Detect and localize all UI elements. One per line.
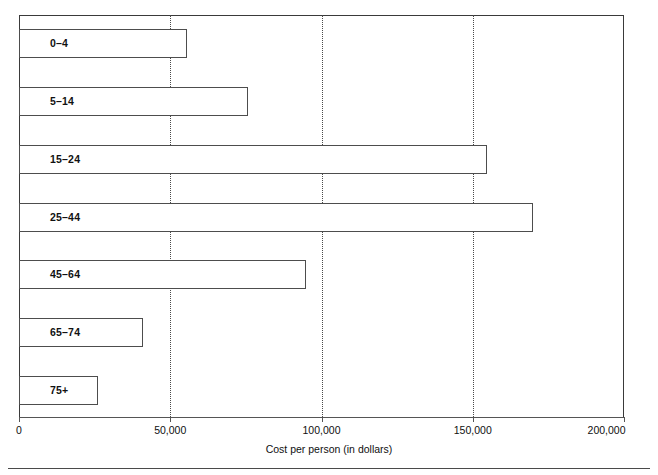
x-tick-label: 200,000 (588, 424, 626, 436)
bar-25-44 (19, 203, 533, 232)
footer-divider (8, 468, 650, 469)
bar-label: 65–74 (50, 318, 80, 347)
tick-mark (19, 417, 20, 422)
tick-mark (473, 417, 474, 422)
tick-mark (624, 417, 625, 422)
bar-label: 0–4 (50, 29, 68, 58)
x-tick-label: 50,000 (154, 424, 186, 436)
bar-label: 5–14 (50, 87, 74, 116)
x-axis-title: Cost per person (in dollars) (0, 443, 658, 455)
bar-label: 15–24 (50, 145, 80, 174)
tick-mark (170, 417, 171, 422)
x-tick-label: 100,000 (303, 424, 341, 436)
chart-figure: 0–45–1415–2425–4445–6465–7475+ 050,00010… (0, 0, 658, 475)
x-tick-label: 0 (16, 424, 22, 436)
bar-0-4 (19, 29, 187, 58)
bar-15-24 (19, 145, 487, 174)
bar-label: 45–64 (50, 260, 80, 289)
tick-mark (322, 417, 323, 422)
bar-label: 75+ (50, 376, 68, 405)
x-tick-label: 150,000 (454, 424, 492, 436)
bar-65-74 (19, 318, 143, 347)
bar-label: 25–44 (50, 203, 80, 232)
